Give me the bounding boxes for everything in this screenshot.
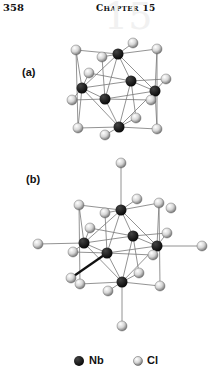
legend-nb-symbol [74,356,84,366]
legend-cl-symbol [134,357,143,366]
nb-atoms-a [77,49,161,133]
highlighted-nb-cl-bond [71,253,107,278]
structure-b [38,163,202,326]
nb6cl18-cluster-figure [0,0,213,379]
cl-atoms-b-back [33,158,207,251]
cl-atoms-b-front [66,247,165,331]
